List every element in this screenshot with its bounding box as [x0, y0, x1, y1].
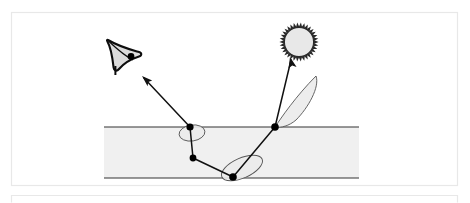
next-panel-top-border — [12, 196, 458, 203]
eye-pupil — [128, 53, 135, 60]
scatter-point-bottom — [229, 173, 237, 181]
sun-disc — [284, 27, 313, 56]
scatter-point-exit — [186, 123, 193, 130]
figure-root — [0, 0, 470, 203]
scatter-point-interior — [190, 155, 197, 162]
scatter-point-entry — [271, 123, 279, 131]
scattering-diagram-svg — [0, 0, 470, 203]
